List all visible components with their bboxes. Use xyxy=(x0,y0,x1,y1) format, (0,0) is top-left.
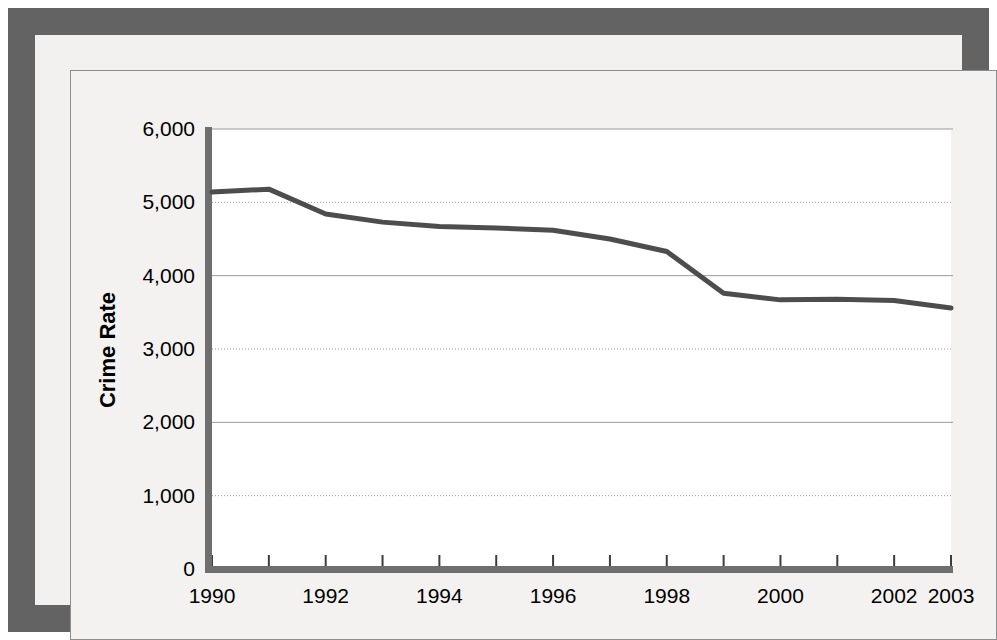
x-tick-label: 1992 xyxy=(302,584,349,607)
figure-frame: 01,0002,0003,0004,0005,0006,000 19901992… xyxy=(8,8,989,632)
y-tick-label: 0 xyxy=(183,557,195,580)
y-tick-label: 3,000 xyxy=(142,337,195,360)
plot-background xyxy=(211,129,951,571)
x-tick-label: 1990 xyxy=(189,584,236,607)
y-tick-label: 2,000 xyxy=(142,410,195,433)
chart-canvas: 01,0002,0003,0004,0005,0006,000 19901992… xyxy=(70,70,997,640)
x-tick-label: 1994 xyxy=(416,584,463,607)
y-tick-label: 1,000 xyxy=(142,484,195,507)
y-axis-tick-labels: 01,0002,0003,0004,0005,0006,000 xyxy=(142,117,195,580)
x-tick-label: 2002 xyxy=(871,584,918,607)
figure-root: 01,0002,0003,0004,0005,0006,000 19901992… xyxy=(0,0,997,640)
x-tick-label: 1996 xyxy=(530,584,577,607)
y-tick-label: 5,000 xyxy=(142,190,195,213)
x-axis-spine xyxy=(205,566,953,573)
x-axis-tick-labels: 19901992199419961998200020022003 xyxy=(189,584,975,607)
y-axis-title: Crime Rate xyxy=(95,292,120,408)
x-tick-label: 2003 xyxy=(928,584,975,607)
y-tick-label: 6,000 xyxy=(142,117,195,140)
x-tick-label: 2000 xyxy=(757,584,804,607)
y-tick-label: 4,000 xyxy=(142,264,195,287)
line-chart: 01,0002,0003,0004,0005,0006,000 19901992… xyxy=(71,71,996,639)
x-tick-label: 1998 xyxy=(643,584,690,607)
